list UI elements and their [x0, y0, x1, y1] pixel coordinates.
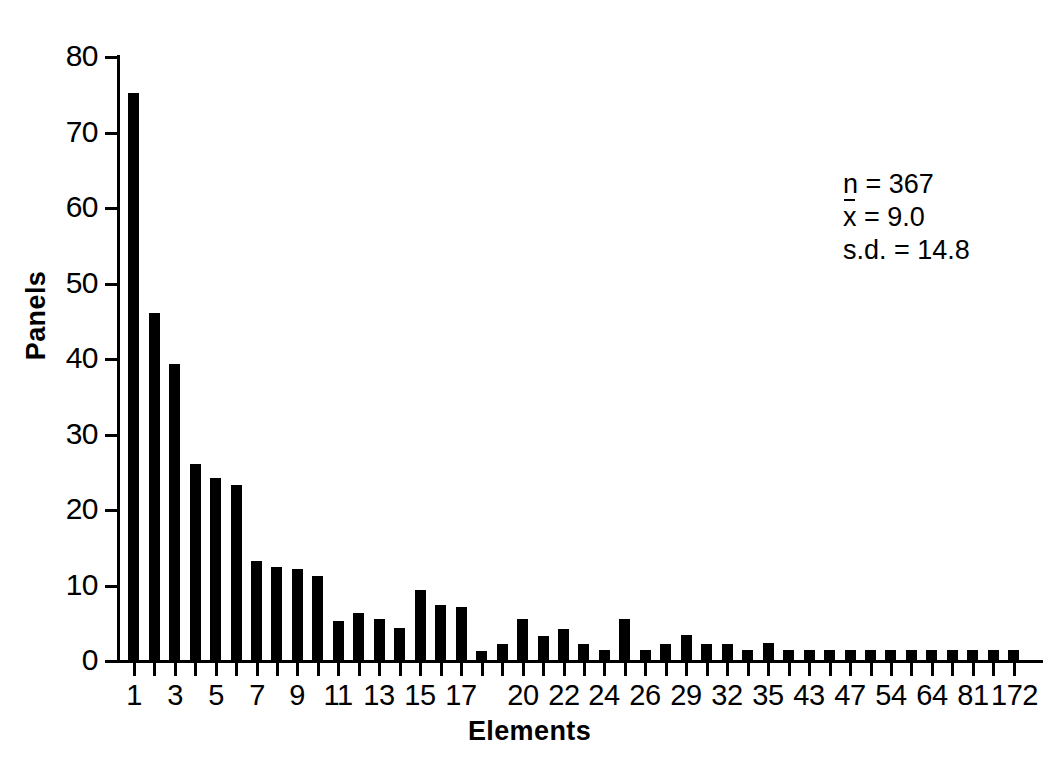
- bar: [640, 650, 651, 661]
- x-axis-tick: [644, 663, 647, 676]
- x-axis-tick-label: 15: [397, 679, 443, 712]
- x-axis-tick: [910, 663, 913, 676]
- x-axis-tick-label: 26: [622, 679, 668, 712]
- x-axis-tick: [542, 663, 545, 676]
- bar: [394, 628, 405, 661]
- y-axis-tick: [105, 283, 118, 286]
- bar: [292, 569, 303, 661]
- y-axis-tick-label: 10: [38, 570, 98, 600]
- bar: [947, 650, 958, 661]
- chart-figure: 01020304050607080 1357911131517202224262…: [0, 0, 1059, 778]
- x-axis-tick: [522, 663, 525, 676]
- x-axis-tick-label: 17: [438, 679, 484, 712]
- x-axis-tick: [563, 663, 566, 676]
- x-axis-tick: [419, 663, 422, 676]
- x-axis-tick: [460, 663, 463, 676]
- x-bar-symbol: x: [843, 201, 857, 234]
- bar: [558, 629, 569, 661]
- y-axis-tick: [105, 358, 118, 361]
- x-axis-tick: [726, 663, 729, 676]
- x-axis-tick-label: 11: [315, 679, 361, 712]
- bar: [149, 313, 160, 661]
- bar: [374, 619, 385, 661]
- x-axis-tick-label: 29: [663, 679, 709, 712]
- bar: [681, 635, 692, 661]
- x-axis-tick-label: 172: [991, 679, 1037, 712]
- x-axis-tick-label: 20: [500, 679, 546, 712]
- x-axis-tick-label: 54: [868, 679, 914, 712]
- bar: [845, 650, 856, 661]
- y-axis-tick-label: 0: [38, 645, 98, 675]
- bar: [701, 644, 712, 661]
- x-axis-tick: [849, 663, 852, 676]
- bar: [763, 643, 774, 661]
- bar-series: [119, 57, 1041, 661]
- bar: [415, 590, 426, 661]
- bar: [926, 650, 937, 661]
- bar: [885, 650, 896, 661]
- bar: [435, 605, 446, 661]
- x-axis-tick: [481, 663, 484, 676]
- bar: [353, 613, 364, 661]
- statistics-annotation: n = 367 x = 9.0 s.d. = 14.8: [843, 168, 970, 267]
- x-axis-tick: [870, 663, 873, 676]
- bar: [578, 644, 589, 661]
- x-axis-tick: [685, 663, 688, 676]
- x-axis-tick: [583, 663, 586, 676]
- bar: [783, 650, 794, 661]
- bar: [599, 650, 610, 661]
- x-axis-tick: [501, 663, 504, 676]
- x-axis-tick-label: 13: [356, 679, 402, 712]
- bar: [251, 561, 262, 661]
- x-axis-tick: [931, 663, 934, 676]
- x-axis-tick: [706, 663, 709, 676]
- x-axis-tick: [440, 663, 443, 676]
- x-axis-tick: [603, 663, 606, 676]
- bar: [906, 650, 917, 661]
- x-axis-title: Elements: [0, 716, 1059, 747]
- x-axis-tick: [153, 663, 156, 676]
- x-axis-tick: [972, 663, 975, 676]
- x-axis-tick-label: 64: [909, 679, 955, 712]
- x-axis-tick: [665, 663, 668, 676]
- y-axis-tick: [105, 56, 118, 59]
- bar: [1008, 650, 1019, 661]
- y-axis-tick: [105, 660, 118, 663]
- x-axis-tick: [1013, 663, 1016, 676]
- bar: [804, 650, 815, 661]
- annotation-n: n = 367: [843, 168, 970, 201]
- bar: [190, 464, 201, 661]
- bar: [619, 619, 630, 661]
- y-axis-tick-label: 80: [38, 41, 98, 71]
- x-axis-tick: [747, 663, 750, 676]
- x-axis-tick: [276, 663, 279, 676]
- bar: [169, 364, 180, 661]
- bar: [333, 621, 344, 661]
- y-axis-tick: [105, 585, 118, 588]
- x-axis-tick-label: 81: [950, 679, 996, 712]
- bar: [660, 644, 671, 661]
- bar: [538, 636, 549, 661]
- bar: [517, 619, 528, 661]
- x-axis-tick: [992, 663, 995, 676]
- x-axis-tick-label: 3: [152, 679, 198, 712]
- y-axis-tick-label: 60: [38, 192, 98, 222]
- x-axis-tick: [296, 663, 299, 676]
- annotation-mean: x = 9.0: [843, 201, 970, 234]
- x-axis-tick-label: 1: [111, 679, 157, 712]
- y-axis-title: Panels: [21, 271, 52, 360]
- x-axis-tick-label: 32: [704, 679, 750, 712]
- x-axis-tick-label: 47: [827, 679, 873, 712]
- x-axis-tick: [194, 663, 197, 676]
- x-axis-tick-label: 43: [786, 679, 832, 712]
- x-axis-tick: [317, 663, 320, 676]
- bar: [128, 93, 139, 661]
- y-axis-tick: [105, 509, 118, 512]
- x-axis-tick: [788, 663, 791, 676]
- x-axis-tick-label: 35: [745, 679, 791, 712]
- x-axis-tick: [808, 663, 811, 676]
- x-axis-tick-label: 5: [193, 679, 239, 712]
- x-axis-tick-label: 24: [581, 679, 627, 712]
- y-axis-tick-label: 70: [38, 117, 98, 147]
- bar: [231, 485, 242, 661]
